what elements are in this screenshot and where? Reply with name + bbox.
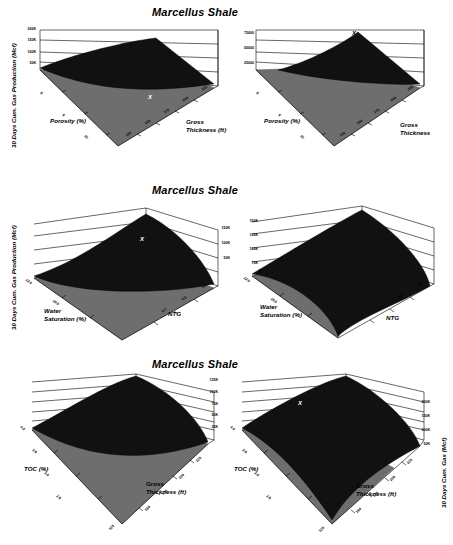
plot-4-ztick-0: 150K xyxy=(242,219,258,223)
plot-2-ztick-1: 50000 xyxy=(232,46,254,50)
plot-2-surface-chart: X xyxy=(238,22,448,162)
plot-3-svg xyxy=(18,200,233,345)
plot-6-ztick-2: 100K xyxy=(412,428,430,432)
plot-4-ztick-2: 100K xyxy=(242,247,258,251)
plot-1-ztick-3: 50K xyxy=(20,61,36,65)
plot-4-y-axis-label: NTG xyxy=(386,314,399,322)
plot-2-x-axis-label: Porosity (%) xyxy=(264,117,300,125)
plot-6-surface-chart: X xyxy=(228,368,443,533)
plot-3-upper-surface xyxy=(34,214,214,291)
plot-3-x-axis-label: Water Saturation (%) xyxy=(44,307,86,322)
chart-title-row2: Marcellus Shale xyxy=(152,184,238,196)
plot-2-marker-x: X xyxy=(352,30,356,36)
chart-title-row1: Marcellus Shale xyxy=(152,6,238,18)
plot-3-y-axis-label: NTG xyxy=(168,310,181,318)
plot-6-y-axis-label: Gross Thickness (ft) xyxy=(356,482,404,497)
plot-5-ztick-0: 125K xyxy=(200,378,218,382)
plot-2-ztick-0: 75000 xyxy=(232,31,254,35)
plot-1-y-axis-label: Gross Thickness (ft) xyxy=(186,118,232,133)
plot-5-y-axis-label: Gross Thickness (ft) xyxy=(146,480,194,495)
plot-4-marker-x: X xyxy=(258,268,262,274)
plot-6-ztick-0: 200K xyxy=(412,400,430,404)
plot-1-ztick-2: 100K xyxy=(20,50,36,54)
plot-1-ztick-0: 200K xyxy=(20,27,36,31)
plot-4-svg xyxy=(238,200,450,345)
plot-2-y-axis-label: Gross Thickness xyxy=(400,121,448,136)
plot-1-ztick-1: 150K xyxy=(20,38,36,42)
plot-5-ztick-3: 50K xyxy=(200,413,218,417)
plot-3-ztick-0: 150K xyxy=(214,226,230,230)
plot-6-svg xyxy=(228,368,443,533)
plot-4-surface-chart: X xyxy=(238,200,450,345)
z-axis-label-row2: 30 Days Cum. Gas Production (Mcf) xyxy=(10,225,17,330)
plot-4-ztick-1: 125K xyxy=(242,233,258,237)
plot-3-surface-chart: X xyxy=(18,200,233,345)
plot-6-x-axis-label: TOC (%) xyxy=(234,465,258,473)
plot-2-ztick-2: 25000 xyxy=(232,61,254,65)
plot-3-ztick-2: 50K xyxy=(214,256,230,260)
plot-1-surface-chart: X xyxy=(18,22,233,162)
plot-4-ztick-3: 75K xyxy=(242,261,258,265)
plot-5-ztick-2: 75K xyxy=(200,402,218,406)
plot-4-x-axis-label: Water Saturation (%) xyxy=(260,303,302,318)
z-axis-label-row1: 30 Days Cum. Gas Production (Mcf) xyxy=(10,43,17,148)
plot-6-ztick-1: 150K xyxy=(412,414,430,418)
plot-1-x-axis-label: Porosity (%) xyxy=(50,117,86,125)
plot-1-marker-x: X xyxy=(148,94,152,100)
plot-5-ztick-1: 100K xyxy=(200,390,218,394)
plot-3-marker-x: X xyxy=(140,236,144,242)
plot-1-svg xyxy=(18,22,233,162)
plot-5-x-axis-label: TOC (%) xyxy=(24,465,48,473)
plot-6-ztick-3: 50K xyxy=(412,442,430,446)
plot-2-svg xyxy=(238,22,448,162)
plot-5-ztick-4: 25K xyxy=(200,425,218,429)
plot-6-marker-x: X xyxy=(298,400,302,406)
plot-3-ztick-1: 100K xyxy=(214,241,230,245)
